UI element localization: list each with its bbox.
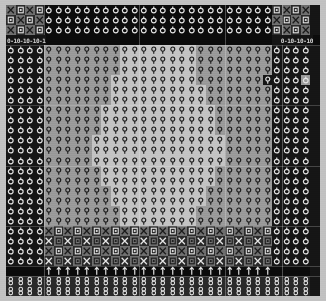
circle-stem-icon[interactable] [158,95,168,105]
boxed-mini-icon[interactable] [16,5,26,15]
boxed-mini-icon[interactable] [187,226,197,236]
circle-slash-icon[interactable] [6,176,16,186]
circle-stem-icon[interactable] [225,75,235,85]
circle-stem-icon[interactable] [187,85,197,95]
circle-stem-icon[interactable] [63,85,73,95]
circle-slash-icon[interactable] [291,196,301,206]
x-cross-icon[interactable] [44,236,54,246]
circle-stem-icon[interactable] [244,166,254,176]
circle-slash-icon[interactable] [25,176,35,186]
circle-slash-icon[interactable] [168,25,178,35]
boxed-mini-icon[interactable] [149,256,159,266]
circle-slash-icon[interactable] [6,45,16,55]
circle-slash-icon[interactable] [301,85,311,95]
boxed-mini-icon[interactable] [54,236,64,246]
circle-stem-icon[interactable] [177,95,187,105]
circle-slash-icon[interactable] [25,65,35,75]
circle-slash-icon[interactable] [301,65,311,75]
circle-slash-icon[interactable] [35,75,45,85]
circle-stem-icon[interactable] [139,55,149,65]
circle-stem-icon[interactable] [196,115,206,125]
circle-stem-icon[interactable] [225,105,235,115]
circle-slash-icon[interactable] [301,145,311,155]
circle-slash-icon[interactable] [215,25,225,35]
circle-slash-icon[interactable] [272,206,282,216]
up-arrow-icon[interactable] [196,266,206,276]
circle-slash-icon[interactable] [16,156,26,166]
circle-slash-icon[interactable] [6,156,16,166]
circle-stem-icon[interactable] [44,196,54,206]
circle-stem-icon[interactable] [168,186,178,196]
circle-stem-icon[interactable] [263,85,273,95]
boxed-mini-icon[interactable] [168,246,178,256]
circle-stem-icon[interactable] [263,65,273,75]
up-arrow-icon[interactable] [101,266,111,276]
up-arrow-icon[interactable] [187,266,197,276]
circle-stem-icon[interactable] [130,186,140,196]
circle-stem-icon[interactable] [44,186,54,196]
boxed-mini-icon[interactable] [54,246,64,256]
circle-slash-icon[interactable] [282,85,292,95]
circle-slash-icon[interactable] [35,105,45,115]
circle-stem-icon[interactable] [177,65,187,75]
circle-stem-icon[interactable] [82,176,92,186]
up-arrow-icon[interactable] [111,266,121,276]
circle-stem-icon[interactable] [139,95,149,105]
boxed-mini-icon[interactable] [130,226,140,236]
boxed-mini-icon[interactable] [206,256,216,266]
double-circle-icon[interactable] [234,276,244,286]
up-arrow-icon[interactable] [206,266,216,276]
circle-stem-icon[interactable] [44,85,54,95]
circle-stem-icon[interactable] [244,206,254,216]
circle-stem-icon[interactable] [158,65,168,75]
circle-slash-icon[interactable] [6,95,16,105]
circle-slash-icon[interactable] [35,115,45,125]
circle-stem-icon[interactable] [168,95,178,105]
circle-slash-icon[interactable] [272,145,282,155]
circle-stem-icon[interactable] [73,216,83,226]
circle-stem-icon[interactable] [196,125,206,135]
circle-stem-icon[interactable] [158,115,168,125]
circle-slash-icon[interactable] [282,156,292,166]
circle-stem-icon[interactable] [63,145,73,155]
x-cross-icon[interactable] [282,5,292,15]
boxed-mini-icon[interactable] [263,246,273,256]
circle-stem-icon[interactable] [234,216,244,226]
circle-stem-icon[interactable] [111,145,121,155]
circle-slash-icon[interactable] [44,25,54,35]
double-circle-icon[interactable] [73,286,83,296]
circle-stem-icon[interactable] [44,216,54,226]
circle-slash-icon[interactable] [35,226,45,236]
x-cross-icon[interactable] [177,226,187,236]
circle-slash-icon[interactable] [25,156,35,166]
circle-slash-icon[interactable] [291,256,301,266]
x-cross-icon[interactable] [234,256,244,266]
circle-stem-icon[interactable] [54,196,64,206]
circle-stem-icon[interactable] [244,65,254,75]
circle-stem-icon[interactable] [101,166,111,176]
circle-stem-icon[interactable] [234,156,244,166]
double-circle-icon[interactable] [282,286,292,296]
circle-stem-icon[interactable] [149,115,159,125]
circle-stem-icon[interactable] [54,75,64,85]
circle-stem-icon[interactable] [158,135,168,145]
circle-slash-icon[interactable] [225,15,235,25]
x-cross-icon[interactable] [253,246,263,256]
circle-stem-icon[interactable] [225,186,235,196]
circle-stem-icon[interactable] [225,166,235,176]
circle-stem-icon[interactable] [101,85,111,95]
circle-slash-icon[interactable] [253,25,263,35]
circle-stem-icon[interactable] [82,216,92,226]
boxed-mini-icon[interactable] [244,236,254,246]
circle-stem-icon[interactable] [253,75,263,85]
circle-stem-icon[interactable] [244,75,254,85]
circle-stem-icon[interactable] [101,65,111,75]
circle-stem-icon[interactable] [263,45,273,55]
circle-stem-icon[interactable] [215,186,225,196]
circle-stem-icon[interactable] [101,95,111,105]
circle-stem-icon[interactable] [177,145,187,155]
circle-stem-icon[interactable] [73,186,83,196]
circle-slash-icon[interactable] [291,45,301,55]
circle-slash-icon[interactable] [301,246,311,256]
circle-stem-icon[interactable] [234,125,244,135]
